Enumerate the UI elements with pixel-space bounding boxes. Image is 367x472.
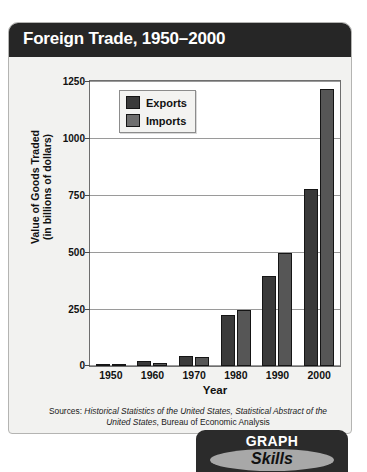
x-tick-label-2000: 2000 [307,369,330,381]
bar-group-2000: 2000 [298,81,340,366]
y-tick-label-500: 500 [68,247,85,258]
bar-exports-1980 [221,315,235,366]
bar-imports-1950 [112,364,126,366]
legend-label-imports: Imports [146,115,186,127]
badge-label-skills: Skills [196,450,348,468]
bar-imports-1990 [278,253,292,366]
legend-swatch-imports [126,114,140,127]
y-tick-label-750: 750 [68,190,85,201]
legend-label-exports: Exports [146,97,187,109]
card-title-bar: Foreign Trade, 1950–2000 [9,23,351,57]
badge-label-graph: GRAPH [196,433,348,449]
bar-group-1980: 1980 [215,81,257,366]
sources-suffix: , Bureau of Economic Analysis [157,417,270,427]
bar-group-1990: 1990 [257,81,299,366]
x-tick-label-1970: 1970 [182,369,205,381]
graph-skills-badge: GRAPH Skills [196,430,348,472]
legend-item-exports: Exports [126,96,187,109]
page-title: Foreign Trade, 1950–2000 [23,29,225,49]
chart-legend: ExportsImports [119,90,196,133]
sources-prefix: Sources: [49,406,84,416]
bar-exports-1970 [179,356,193,366]
bar-imports-1960 [153,363,167,366]
bar-imports-2000 [320,89,334,366]
bar-imports-1980 [237,310,251,366]
sources-note: Sources: Historical Statistics of the Un… [43,406,333,428]
bar-imports-1970 [195,357,209,366]
bar-exports-1950 [96,364,110,366]
y-tick-label-1000: 1000 [63,133,85,144]
bar-exports-2000 [304,189,318,366]
x-tick-label-1990: 1990 [266,369,289,381]
y-tick-label-1250: 1250 [63,76,85,87]
legend-swatch-exports [126,96,140,109]
y-tick-label-0: 0 [79,360,85,371]
bar-exports-1960 [137,361,151,366]
plot-area: 025050075010001250 195019601970198019902… [89,80,341,367]
bar-exports-1990 [262,276,276,366]
x-axis-title: Year [89,384,341,396]
y-axis-title: Value of Goods Traded (in billions of do… [29,107,53,267]
legend-item-imports: Imports [126,114,187,127]
chart-area: Value of Goods Traded (in billions of do… [9,57,353,435]
graph-card: Foreign Trade, 1950–2000 Value of Goods … [8,22,352,434]
y-axis-title-line1: Value of Goods Traded [29,107,41,267]
x-tick-label-1980: 1980 [224,369,247,381]
x-tick-label-1950: 1950 [99,369,122,381]
y-axis-title-line2: (in billions of dollars) [41,107,53,267]
x-tick-label-1960: 1960 [141,369,164,381]
y-tick-label-250: 250 [68,304,85,315]
